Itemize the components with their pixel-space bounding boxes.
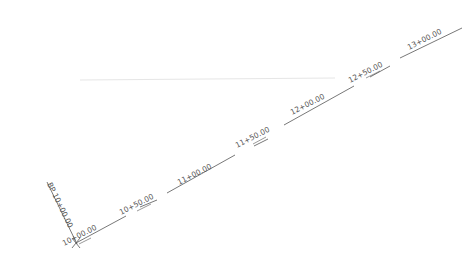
begin-point-label: BP 10+00.00 xyxy=(45,181,75,230)
station-labels: 10+00.00 10+50.00 11+00.00 11+50.00 12+0… xyxy=(61,27,444,248)
alignment-drawing: BP 10+00.00 10+00.00 10+50.00 11+00.00 1… xyxy=(0,0,465,257)
station-label: 10+50.00 xyxy=(118,192,156,217)
alignment-line xyxy=(76,28,462,243)
station-label: 13+00.00 xyxy=(406,27,444,52)
station-label: 11+00.00 xyxy=(176,162,214,187)
faint-reference-line xyxy=(80,78,335,80)
